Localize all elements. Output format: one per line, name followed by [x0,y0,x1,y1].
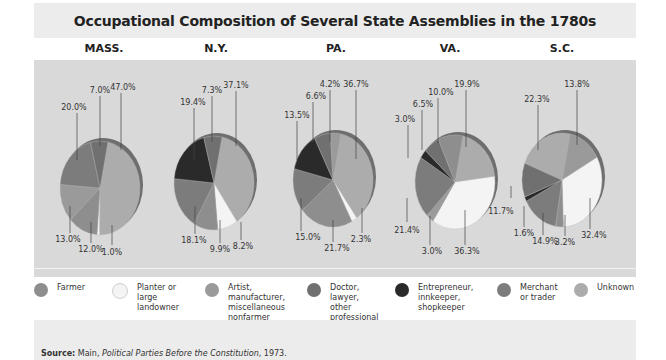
legend-label: Merchant or trader [520,283,558,303]
percent-label: 36.3% [454,247,480,256]
percent-label: 9.9% [210,245,231,254]
legend-label: Entrepreneur, innkeeper, shopkeeper [418,283,473,313]
legend-item-merchant: Merchant or trader [497,283,558,303]
pie-pa: 36.7%2.3%21.7%15.0%13.5%6.6%4.2% [284,80,376,253]
legend-label: Planter or large landowner [137,283,179,313]
percent-label: 21.4% [394,226,420,235]
pie-mass: 47.0%1.0%12.0%13.0%20.0%7.0% [55,83,143,257]
percent-label: 1.6% [514,229,535,238]
percent-label: 47.0% [110,83,136,92]
legend-label: Artist, manufacturer, miscellaneous nonf… [228,283,285,323]
percent-label: 3.2% [555,238,576,247]
percent-label: 13.0% [55,235,81,244]
percent-label: 32.4% [581,231,607,240]
percent-label: 21.7% [324,244,350,253]
legend-swatch-icon [34,283,48,297]
legend-item-artist: Artist, manufacturer, miscellaneous nonf… [205,283,285,323]
percent-label: 1.0% [102,248,123,257]
percent-label: 11.7% [488,207,514,216]
percent-label: 19.9% [454,80,480,89]
legend-label: Farmer [57,283,85,293]
percent-label: 3.0% [422,247,443,256]
percent-label: 19.4% [180,98,206,107]
percent-label: 7.0% [90,86,111,95]
source-year: , 1973. [259,349,287,358]
percent-label: 6.5% [413,100,434,109]
legend-item-planter: Planter or large landowner [112,283,179,313]
percent-label: 6.6% [306,92,327,101]
source-band: Source: Main, Political Parties Before t… [34,320,636,360]
legend-label: Doctor, lawyer, other professional [330,283,378,323]
percent-label: 10.0% [428,88,454,97]
percent-label: 22.3% [524,95,550,104]
percent-label: 13.8% [564,80,590,89]
percent-label: 37.1% [223,81,249,90]
percent-label: 8.2% [233,242,254,251]
pie-ny: 37.1%8.2%9.9%18.1%19.4%7.3% [174,81,257,254]
legend-swatch-icon [574,283,588,297]
percent-label: 2.3% [351,235,372,244]
percent-label: 20.0% [61,103,87,112]
percent-label: 4.2% [320,80,341,89]
legend-item-entrepreneur: Entrepreneur, innkeeper, shopkeeper [395,283,473,313]
percent-label: 18.1% [181,236,207,245]
percent-label: 13.5% [284,111,310,120]
legend-label: Unknown [597,283,634,293]
pie-va: 19.9%36.3%3.0%21.4%3.0%6.5%10.0% [394,80,498,256]
legend-swatch-icon [112,283,128,299]
percent-label: 12.0% [78,245,104,254]
legend-swatch-icon [205,283,219,297]
source-author: Main, [78,349,100,358]
legend-swatch-icon [497,283,511,297]
percent-label: 3.0% [395,115,416,124]
legend-item-unknown: Unknown [574,283,634,297]
source-citation: Source: Main, Political Parties Before t… [34,349,287,358]
percent-label: 36.7% [343,80,369,89]
percent-label: 14.9% [532,237,558,246]
source-label: Source: [41,349,75,358]
legend-swatch-icon [395,283,409,297]
legend-swatch-icon [307,283,321,297]
percent-label: 7.3% [202,86,223,95]
source-work: Political Parties Before the Constitutio… [102,349,259,358]
percent-label: 15.0% [295,233,321,242]
legend-item-doctor: Doctor, lawyer, other professional [307,283,378,323]
pie-sc: 13.8%32.4%3.2%14.9%1.6%11.7%22.3% [488,80,607,247]
legend-item-farmer: Farmer [34,283,85,297]
